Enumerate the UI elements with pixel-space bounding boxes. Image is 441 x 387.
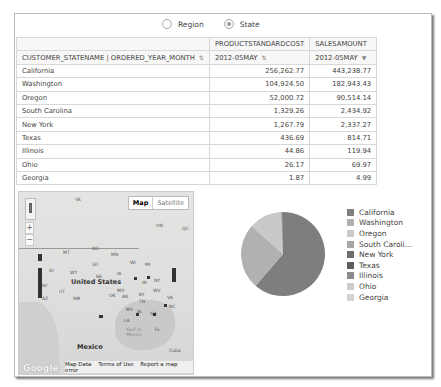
sort-icon[interactable]: ⇅ xyxy=(199,54,204,61)
map-label: NC xyxy=(169,304,176,309)
map-label: FL xyxy=(155,327,160,332)
legend-label: Washington xyxy=(359,218,403,227)
header-productstandardcost[interactable]: PRODUCTSTANDARDCOST xyxy=(209,38,309,51)
radio-state[interactable]: State xyxy=(224,19,260,29)
legend-item[interactable]: Ohio xyxy=(347,281,412,292)
legend-label: Oregon xyxy=(359,229,387,238)
radio-region-button[interactable] xyxy=(162,19,172,29)
view-radio-group: Region State xyxy=(162,16,280,32)
map-label: ID xyxy=(49,268,54,273)
pie-legend: California Washington Oregon South Carol… xyxy=(347,207,412,302)
map-label: SD xyxy=(92,262,98,267)
radio-region-label: Region xyxy=(178,20,204,29)
map-label: IN xyxy=(142,280,147,285)
map-label: MO xyxy=(117,288,124,293)
radio-region[interactable]: Region xyxy=(162,19,204,29)
map-label: MN xyxy=(111,252,118,257)
radio-state-label: State xyxy=(240,20,260,29)
map-type-satellite-button[interactable]: Satellite xyxy=(153,197,188,209)
terms-of-use-link[interactable]: Terms of Use xyxy=(98,361,133,367)
table-row: Washington104,924.50182,943.43 xyxy=(17,78,377,91)
state-cell: California xyxy=(17,64,210,77)
zoom-out-button[interactable]: − xyxy=(25,234,34,246)
map-marker-washington[interactable] xyxy=(38,254,42,261)
legend-swatch xyxy=(347,209,354,216)
map-label: NY xyxy=(154,278,160,283)
sort-icon[interactable]: ⇅ xyxy=(261,54,266,61)
legend-item[interactable]: Illinois xyxy=(347,271,412,282)
header-salesamount[interactable]: SALESAMOUNT xyxy=(310,38,377,51)
cost-cell: 26.17 xyxy=(209,158,309,171)
radio-state-button[interactable] xyxy=(224,19,234,29)
map-label: IA xyxy=(117,271,121,276)
sales-cell: 4.99 xyxy=(310,171,377,184)
street-view-pegman-icon[interactable] xyxy=(25,198,36,220)
map-label: QC xyxy=(182,226,189,231)
map-type-control: Map Satellite xyxy=(128,196,189,210)
legend-label: California xyxy=(359,208,395,217)
zoom-in-button[interactable]: + xyxy=(25,222,34,234)
table-row: Illinois44.86119.94 xyxy=(17,145,377,158)
header-corner xyxy=(17,38,210,51)
map-label: MS xyxy=(126,307,133,312)
sales-pie-chart[interactable] xyxy=(240,211,326,297)
legend-item[interactable]: South Caroli... xyxy=(347,239,412,250)
legend-swatch xyxy=(347,272,354,279)
map-label: ND xyxy=(92,246,99,251)
state-cell: Ohio xyxy=(17,158,210,171)
map-label: KY xyxy=(139,292,145,297)
map-marker-oregon[interactable] xyxy=(136,313,139,316)
sales-cell: 182,943.43 xyxy=(310,78,377,91)
table-row: Ohio26.1769.97 xyxy=(17,158,377,171)
map-type-map-button[interactable]: Map xyxy=(129,197,154,209)
map-label-gulf: Gulf of Mexico xyxy=(119,327,149,337)
gulf-of-mexico-water xyxy=(115,300,175,350)
map-marker-california[interactable] xyxy=(38,268,42,298)
legend-item[interactable]: California xyxy=(347,207,412,218)
state-cell: Washington xyxy=(17,78,210,91)
map-label-mexico: Mexico xyxy=(77,343,103,351)
map-label: UT xyxy=(59,289,65,294)
legend-swatch xyxy=(347,294,354,301)
legend-item[interactable]: Oregon xyxy=(347,228,412,239)
map-marker-new-york[interactable] xyxy=(172,268,176,282)
cost-cell: 44.86 xyxy=(209,145,309,158)
cost-cell: 436.69 xyxy=(209,131,309,144)
cost-cell: 1.87 xyxy=(209,171,309,184)
legend-label: Ohio xyxy=(359,282,376,291)
table-row: South Carolina1,329.262,434.92 xyxy=(17,104,377,117)
header-month-sales[interactable]: 2012-05MAY▼ xyxy=(310,51,377,64)
sales-cell: 2,337.27 xyxy=(310,118,377,131)
header-month-cost[interactable]: 2012-05MAY⇅ xyxy=(209,51,309,64)
legend-item[interactable]: Georgia xyxy=(347,292,412,303)
sales-cell: 119.94 xyxy=(310,145,377,158)
header-month-cost-label: 2012-05MAY xyxy=(215,54,258,62)
map-view[interactable]: SK ON QC MT ND MN SD WI MI ID WY NE IA N… xyxy=(18,191,194,375)
legend-item[interactable]: Texas xyxy=(347,260,412,271)
table-row: New York1,267.792,337.27 xyxy=(17,118,377,131)
map-marker-illinois[interactable] xyxy=(134,277,137,280)
header-dimension[interactable]: CUSTOMER_STATENAME | ORDERED_YEAR_MONTH⇅ xyxy=(17,51,210,64)
map-label: LA xyxy=(124,318,130,323)
legend-label: Texas xyxy=(359,261,380,270)
map-label: WV xyxy=(153,288,161,293)
map-marker-georgia[interactable] xyxy=(153,313,156,316)
pivot-table: PRODUCTSTANDARDCOST SALESAMOUNT CUSTOMER… xyxy=(16,37,377,185)
map-marker-ohio[interactable] xyxy=(147,276,150,279)
map-label-united-states: United States xyxy=(71,278,121,286)
cost-cell: 52,000.72 xyxy=(209,91,309,104)
header-month-sales-label: 2012-05MAY xyxy=(315,54,358,62)
legend-swatch xyxy=(347,262,354,269)
map-marker-texas[interactable] xyxy=(99,315,103,318)
google-logo[interactable]: Google xyxy=(23,363,58,373)
map-marker-south-carolina[interactable] xyxy=(164,304,167,307)
state-cell: Texas xyxy=(17,131,210,144)
sort-desc-icon[interactable]: ▼ xyxy=(362,54,367,61)
legend-item[interactable]: New York xyxy=(347,249,412,260)
map-label: AZ xyxy=(42,296,48,301)
legend-swatch xyxy=(347,283,354,290)
map-label: MI xyxy=(145,262,150,267)
sales-cell: 90,514.14 xyxy=(310,91,377,104)
pie-slices[interactable] xyxy=(241,212,325,296)
legend-item[interactable]: Washington xyxy=(347,218,412,229)
